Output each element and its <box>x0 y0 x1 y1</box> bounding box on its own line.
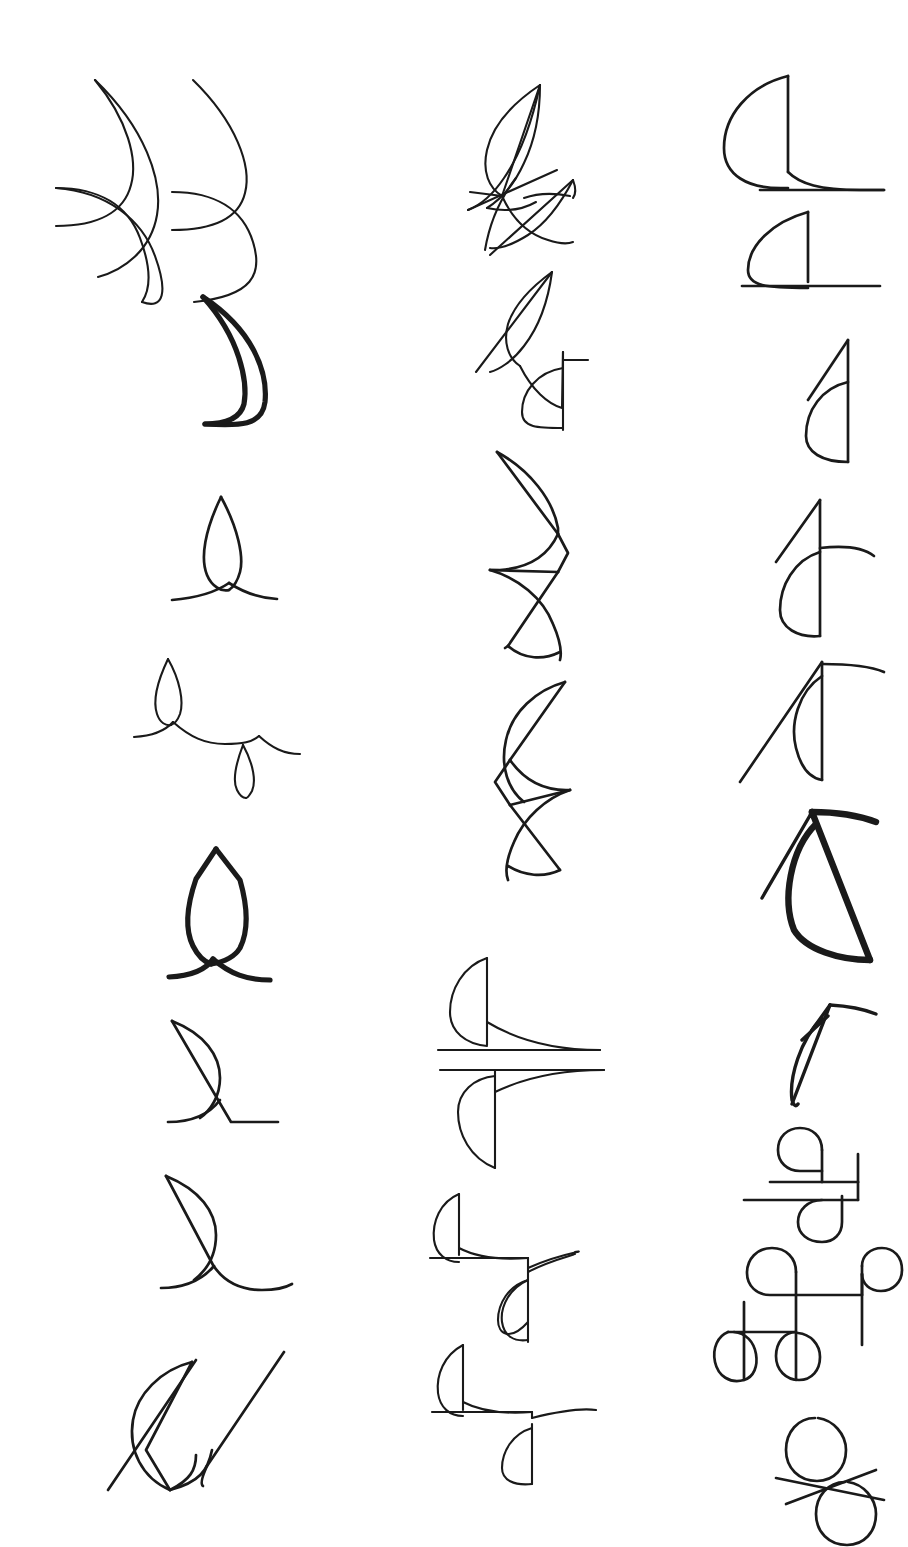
glyph-inverted-d-with-crossbar <box>440 1070 604 1168</box>
glyph-narrow-quill-lens <box>792 1005 876 1106</box>
glyph-double-crescent-pair <box>56 80 256 304</box>
glyph-double-d-ligature-upper <box>430 1194 579 1342</box>
glyph-crossed-flag-lens <box>740 662 884 782</box>
glyph-half-leaf-with-foot <box>168 1021 278 1122</box>
glyph-d-with-baseline-sweep <box>724 76 884 190</box>
glyph-double-d-ligature-lower <box>432 1345 596 1484</box>
glyph-slashed-lens-with-stem <box>108 1352 284 1490</box>
glyph-specimen-sheet: Hand-drawn abstract calligraphic glyph f… <box>0 0 908 1547</box>
glyph-stacked-slanted-leaves <box>468 85 573 243</box>
glyph-d-on-baseline <box>742 212 880 288</box>
glyph-half-leaf-with-tail <box>161 1176 292 1290</box>
glyph-bold-leaf-on-arc <box>169 849 270 980</box>
glyph-twin-loop-cross <box>776 1418 884 1545</box>
column-right <box>714 76 902 1545</box>
glyph-flag-over-half-lens <box>806 340 848 462</box>
glyph-slanted-leaf-over-d <box>476 272 588 430</box>
glyph-double-leaf-s-curve <box>134 659 300 798</box>
column-middle <box>430 85 604 1484</box>
glyph-mirrored-diamond-crescents <box>495 682 570 880</box>
glyph-diamond-between-crescents <box>490 452 568 660</box>
column-left <box>56 80 300 1490</box>
glyph-loop-step-bracket <box>744 1128 858 1242</box>
glyph-filled-crescent-moon <box>203 297 265 425</box>
glyph-flag-over-half-lens-wide <box>776 500 874 636</box>
glyph-canvas <box>0 0 908 1547</box>
glyph-leaf-on-arc <box>172 497 277 600</box>
glyph-d-with-crossbar-tail <box>438 958 600 1050</box>
glyph-four-loop-grid <box>714 1248 902 1381</box>
glyph-bold-tapered-lens <box>762 812 876 960</box>
